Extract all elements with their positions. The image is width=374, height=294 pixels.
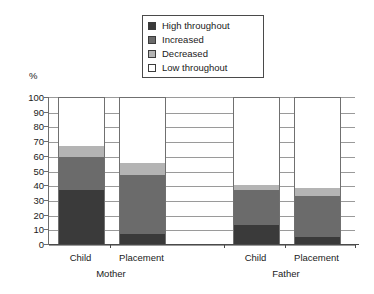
legend-label-increased: Increased xyxy=(162,34,204,45)
y-axis-unit-label: % xyxy=(29,70,37,81)
y-axis-tick-mark xyxy=(44,112,49,113)
chart-legend: High throughout Increased Decreased Low … xyxy=(142,15,264,78)
bar-segment xyxy=(294,196,341,237)
plot-area xyxy=(48,97,355,244)
bar-segment xyxy=(233,225,280,244)
legend-swatch-decreased xyxy=(148,50,156,58)
y-axis-tick-mark xyxy=(44,97,49,98)
y-axis-tick-label: 0 xyxy=(18,240,44,249)
legend-item-low-throughout: Low throughout xyxy=(148,61,258,74)
bar-segment xyxy=(58,157,105,189)
bar-segment xyxy=(233,185,280,189)
y-axis-tick-label: 40 xyxy=(18,181,44,190)
bar-segment xyxy=(119,97,166,163)
bar-0 xyxy=(58,97,105,244)
legend-label-high-throughout: High throughout xyxy=(162,20,230,31)
y-axis-tick-mark xyxy=(44,229,49,230)
bar-2 xyxy=(233,97,280,244)
y-axis-tick-label: 80 xyxy=(18,122,44,131)
bar-segment xyxy=(119,175,166,234)
y-axis-tick-mark xyxy=(44,200,49,201)
y-axis-tick-label: 100 xyxy=(18,93,44,102)
y-axis-tick-label: 70 xyxy=(18,137,44,146)
legend-item-decreased: Decreased xyxy=(148,47,258,60)
bar-segment xyxy=(233,97,280,185)
x-axis-tick-label: Placement xyxy=(102,252,182,263)
y-axis-tick-mark xyxy=(44,185,49,186)
x-axis-tick-label: Placement xyxy=(277,252,357,263)
bar-segment xyxy=(58,190,105,244)
x-axis-group-label: Mother xyxy=(71,268,151,279)
x-axis-baseline xyxy=(44,244,359,245)
y-axis-tick-label: 50 xyxy=(18,167,44,176)
y-axis-tick-mark xyxy=(44,126,49,127)
y-axis-tick-label: 10 xyxy=(18,225,44,234)
legend-swatch-low-throughout xyxy=(148,64,156,72)
bar-segment xyxy=(119,234,166,244)
legend-item-increased: Increased xyxy=(148,33,258,46)
legend-swatch-increased xyxy=(148,36,156,44)
bar-segment xyxy=(119,163,166,175)
x-axis-group-label: Father xyxy=(246,268,326,279)
bar-segment xyxy=(58,97,105,146)
bar-segment xyxy=(58,146,105,158)
y-axis-tick-label: 60 xyxy=(18,152,44,161)
y-axis-tick-label: 90 xyxy=(18,108,44,117)
y-axis-tick-label: 30 xyxy=(18,196,44,205)
legend-label-low-throughout: Low throughout xyxy=(162,62,228,73)
x-axis-tick-mark xyxy=(285,244,286,248)
gridline xyxy=(49,245,355,246)
bar-1 xyxy=(119,97,166,244)
y-axis-tick-mark xyxy=(44,141,49,142)
y-axis-tick-mark xyxy=(44,171,49,172)
legend-item-high-throughout: High throughout xyxy=(148,19,258,32)
y-axis-tick-label: 20 xyxy=(18,211,44,220)
stacked-bar-chart: High throughout Increased Decreased Low … xyxy=(0,0,374,294)
bar-segment xyxy=(233,190,280,225)
y-axis-tick-mark xyxy=(44,156,49,157)
y-axis-tick-mark xyxy=(44,215,49,216)
plot-inner xyxy=(49,98,355,244)
bar-3 xyxy=(294,97,341,244)
x-axis-tick-mark xyxy=(224,244,225,248)
bar-segment xyxy=(294,188,341,195)
x-axis-tick-mark xyxy=(110,244,111,248)
bar-segment xyxy=(294,97,341,188)
legend-swatch-high-throughout xyxy=(148,22,156,30)
x-axis-tick-mark xyxy=(355,244,356,248)
y-axis-tick-mark xyxy=(44,244,49,245)
legend-label-decreased: Decreased xyxy=(162,48,208,59)
y-axis-tick-labels: 1009080706050403020100 xyxy=(16,92,44,252)
bar-segment xyxy=(294,237,341,244)
